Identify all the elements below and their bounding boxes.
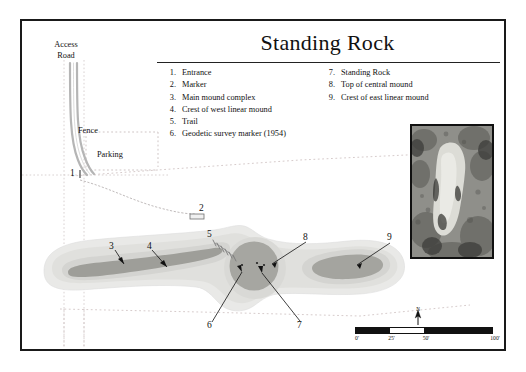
scale-segment: [390, 328, 424, 333]
legend-item-label: Top of central mound: [341, 79, 413, 91]
callout-9: 9: [387, 232, 392, 242]
legend-item-number: 8.: [320, 79, 341, 91]
scale-tick: 50': [423, 335, 430, 341]
legend-item-label: Entrance: [182, 67, 211, 79]
legend-item-label: Trail: [182, 116, 198, 128]
legend-column-left: 1. Entrance 2. Marker 3. Main mound comp…: [161, 67, 331, 141]
legend-item-label: Main mound complex: [182, 92, 255, 104]
scale-tick-labels: 0' 25' 50' 100': [340, 335, 510, 347]
legend-item: 2. Marker: [161, 79, 331, 91]
legend-item-number: 2.: [161, 79, 182, 91]
title-divider: [157, 62, 500, 63]
callout-1: 1: [70, 168, 75, 178]
scale-tick: 0': [355, 335, 359, 341]
figure-title: Standing Rock: [155, 30, 500, 56]
scale-tick: 100': [490, 335, 499, 341]
label-fence: Fence: [78, 126, 98, 135]
scale-segment: [356, 328, 390, 333]
callout-4: 4: [147, 241, 152, 251]
callout-6: 6: [207, 320, 212, 330]
callout-7: 7: [297, 320, 302, 330]
legend-item-label: Crest of east linear mound: [341, 92, 429, 104]
legend-item-number: 6.: [161, 128, 182, 140]
legend-item: 5. Trail: [161, 116, 331, 128]
marker-2-symbol: [190, 214, 204, 219]
legend-item-number: 1.: [161, 67, 182, 79]
callout-5: 5: [207, 229, 212, 239]
label-access-road-line1: Access: [41, 40, 91, 49]
legend-item: 8. Top of central mound: [320, 79, 500, 91]
legend-item-number: 5.: [161, 116, 182, 128]
legend-item-label: Standing Rock: [341, 67, 390, 79]
legend-item-number: 3.: [161, 92, 182, 104]
legend-item-label: Crest of west linear mound: [182, 104, 272, 116]
label-parking: Parking: [97, 150, 123, 159]
north-arrow-icon: [415, 310, 421, 325]
scale-bar: [355, 327, 493, 334]
property-boundary-lines: [22, 60, 170, 348]
legend-item: 6. Geodetic survey marker (1954): [161, 128, 331, 140]
legend-item: 3. Main mound complex: [161, 92, 331, 104]
legend-item-number: 7.: [320, 67, 341, 79]
legend-item: 9. Crest of east linear mound: [320, 92, 500, 104]
callout-3: 3: [109, 241, 114, 251]
photo-content: [412, 126, 492, 257]
legend-item: 7. Standing Rock: [320, 67, 500, 79]
central-mound: [224, 237, 286, 299]
scale-tick: 25': [388, 335, 395, 341]
legend-item: 4. Crest of west linear mound: [161, 104, 331, 116]
north-label: N: [406, 306, 430, 312]
scale-segment: [424, 328, 492, 333]
legend-item-number: 4.: [161, 104, 182, 116]
legend-item-number: 9.: [320, 92, 341, 104]
legend-item: 1. Entrance: [161, 67, 331, 79]
legend-item-label: Geodetic survey marker (1954): [182, 128, 286, 140]
callout-8: 8: [303, 232, 308, 242]
standing-rock-photo: [410, 124, 494, 259]
callout-2: 2: [199, 203, 204, 213]
figure-standing-rock-site-map: Standing Rock 1. Entrance 2. Marker 3. M…: [0, 0, 526, 372]
label-access-road-line2: Road: [41, 51, 91, 60]
legend-item-label: Marker: [182, 79, 206, 91]
entrance-to-marker-trail: [80, 180, 196, 214]
legend-column-right: 7. Standing Rock 8. Top of central mound…: [320, 67, 500, 104]
